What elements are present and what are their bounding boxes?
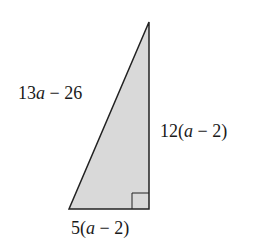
triangle-diagram: 13a − 26 12(a − 2) 5(a − 2) [0, 0, 262, 242]
hypotenuse-label: 13a − 26 [18, 83, 82, 103]
triangle-shape [69, 22, 149, 209]
base-label: 5(a − 2) [71, 218, 129, 239]
vertical-leg-label: 12(a − 2) [160, 121, 227, 142]
